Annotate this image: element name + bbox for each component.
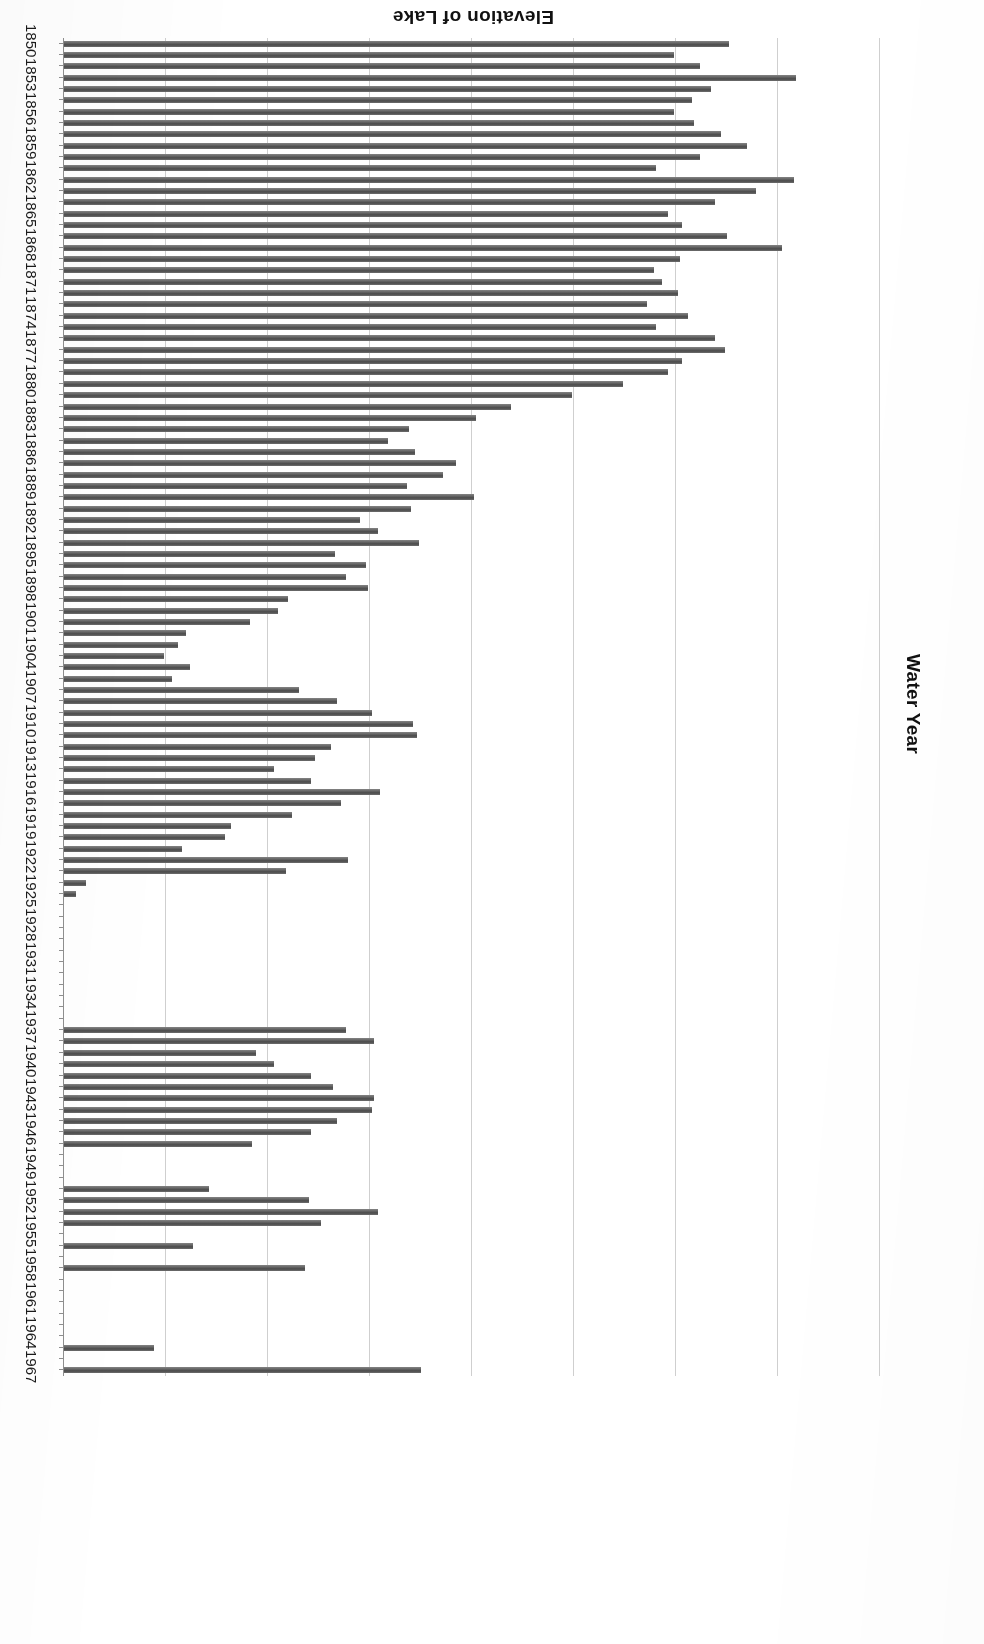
category-axis-tick-label: 1895 (23, 534, 40, 567)
bar (64, 301, 647, 307)
category-tick (59, 190, 64, 191)
category-tick (59, 383, 64, 384)
category-tick (59, 814, 64, 815)
bar (64, 177, 794, 183)
category-tick (59, 1199, 64, 1200)
category-tick (59, 349, 64, 350)
bar (64, 596, 288, 602)
bar (64, 415, 476, 421)
bar (64, 449, 415, 455)
bar (64, 267, 654, 273)
category-tick (59, 655, 64, 656)
category-axis-tick-label: 1952 (23, 1180, 40, 1213)
category-tick (59, 303, 64, 304)
bar (64, 75, 796, 81)
bar (64, 642, 178, 648)
category-tick (59, 950, 64, 951)
category-tick (59, 451, 64, 452)
category-tick (59, 972, 64, 973)
bar (64, 1095, 374, 1101)
category-axis-tick-label: 1946 (23, 1112, 40, 1145)
bar (64, 199, 715, 205)
category-axis-tick-label: 1868 (23, 228, 40, 261)
category-tick (59, 417, 64, 418)
category-axis-tick-label: 1943 (23, 1078, 40, 1111)
category-tick (59, 1301, 64, 1302)
bar (64, 562, 366, 568)
category-tick (59, 542, 64, 543)
category-tick (59, 678, 64, 679)
category-tick (59, 836, 64, 837)
bar (64, 834, 225, 840)
bar (64, 1186, 209, 1192)
category-tick (59, 848, 64, 849)
category-tick (59, 99, 64, 100)
bar (64, 812, 292, 818)
category-tick (59, 870, 64, 871)
bar (64, 290, 678, 296)
category-tick (59, 961, 64, 962)
bar (64, 438, 388, 444)
bar (64, 426, 409, 432)
category-tick (59, 893, 64, 894)
category-tick (59, 65, 64, 66)
category-tick (59, 315, 64, 316)
value-gridline (777, 38, 778, 1376)
category-tick (59, 281, 64, 282)
bar (64, 1367, 421, 1373)
bar (64, 1118, 337, 1124)
category-tick (59, 133, 64, 134)
category-tick (59, 1256, 64, 1257)
category-tick (59, 1131, 64, 1132)
bar (64, 687, 299, 693)
bar (64, 1345, 154, 1351)
category-tick (59, 723, 64, 724)
bar (64, 664, 190, 670)
category-tick (59, 88, 64, 89)
scanned-page: Elevation of Lake Water Year 219.0214.02… (0, 0, 984, 1644)
category-tick (59, 1211, 64, 1212)
bar (64, 868, 286, 874)
category-tick (59, 768, 64, 769)
category-tick (59, 530, 64, 531)
bar (64, 1050, 256, 1056)
category-tick (59, 77, 64, 78)
category-tick (59, 712, 64, 713)
bar (64, 188, 756, 194)
bar (64, 676, 172, 682)
bar (64, 1107, 372, 1113)
category-tick (59, 610, 64, 611)
category-axis-tick-label: 1961 (23, 1282, 40, 1315)
category-tick (59, 1358, 64, 1359)
category-tick (59, 1154, 64, 1155)
category-tick (59, 1075, 64, 1076)
category-tick (59, 428, 64, 429)
bar (64, 721, 413, 727)
bar (64, 460, 456, 466)
category-tick (59, 802, 64, 803)
category-tick (59, 632, 64, 633)
category-tick (59, 1109, 64, 1110)
category-tick (59, 1313, 64, 1314)
category-tick (59, 54, 64, 55)
bar (64, 528, 378, 534)
bar (64, 347, 725, 353)
bar (64, 120, 694, 126)
category-axis-tick-label: 1871 (23, 262, 40, 295)
category-tick (59, 485, 64, 486)
bar (64, 778, 311, 784)
category-axis-tick-label: 1922 (23, 840, 40, 873)
category-tick (59, 519, 64, 520)
bar (64, 1073, 311, 1079)
category-axis-tick-label: 1958 (23, 1248, 40, 1281)
category-tick (59, 337, 64, 338)
category-axis-tick-label: 1913 (23, 738, 40, 771)
category-tick (59, 122, 64, 123)
category-tick (59, 224, 64, 225)
bar (64, 823, 231, 829)
category-tick (59, 372, 64, 373)
category-tick (59, 553, 64, 554)
category-axis-tick-label: 1853 (23, 58, 40, 91)
category-axis-tick-label: 1862 (23, 160, 40, 193)
category-tick (59, 757, 64, 758)
